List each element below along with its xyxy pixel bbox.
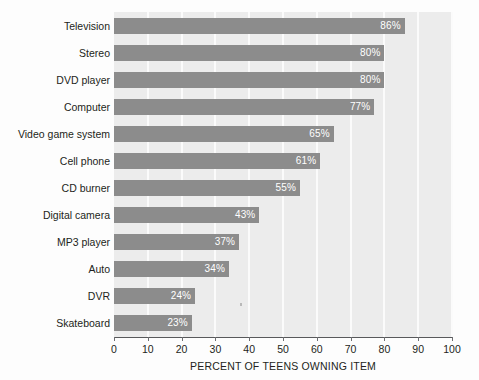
bar-value-label: 61% [114, 153, 320, 169]
bar-row: 43% [114, 207, 452, 223]
bar-row: 23% [114, 315, 452, 331]
category-label: Video game system [2, 126, 110, 142]
bar-value-label: 80% [114, 45, 384, 61]
bar-row: 86% [114, 18, 452, 34]
bar-value-label: 23% [114, 315, 192, 331]
bar-value-label: 77% [114, 99, 374, 115]
bar-row: 24% [114, 288, 452, 304]
scan-artifact-speck [240, 303, 242, 306]
category-label: Television [2, 18, 110, 34]
tick-mark-40 [249, 337, 250, 341]
bar-value-label: 37% [114, 234, 239, 250]
bar-row: 77% [114, 99, 452, 115]
bar-row: 80% [114, 72, 452, 88]
tick-mark-30 [215, 337, 216, 341]
bar-value-label: 55% [114, 180, 300, 196]
tick-mark-10 [148, 337, 149, 341]
category-label: DVR [2, 288, 110, 304]
category-label: CD burner [2, 180, 110, 196]
bar-row: 65% [114, 126, 452, 142]
bars-layer: 86%80%80%77%65%61%55%43%37%34%24%23% [114, 12, 452, 337]
x-tick-label: 0 [111, 343, 117, 355]
tick-mark-20 [182, 337, 183, 341]
category-label: Computer [2, 99, 110, 115]
bar-row: 61% [114, 153, 452, 169]
bar-row: 34% [114, 261, 452, 277]
bar-value-label: 86% [114, 18, 405, 34]
tick-mark-80 [384, 337, 385, 341]
category-label: Skateboard [2, 315, 110, 331]
bar-value-label: 43% [114, 207, 259, 223]
tick-mark-50 [283, 337, 284, 341]
x-tick-label: 100 [443, 343, 461, 355]
bar-value-label: 24% [114, 288, 195, 304]
bar-chart: 86%80%80%77%65%61%55%43%37%34%24%23% Tel… [0, 0, 479, 380]
x-tick-label: 90 [412, 343, 424, 355]
bar-row: 37% [114, 234, 452, 250]
tick-mark-90 [418, 337, 419, 341]
x-tick-label: 60 [311, 343, 323, 355]
x-tick-label: 50 [277, 343, 289, 355]
category-label: DVD player [2, 72, 110, 88]
x-tick-label: 10 [142, 343, 154, 355]
tick-mark-70 [351, 337, 352, 341]
bar-value-label: 65% [114, 126, 334, 142]
x-axis-title: PERCENT OF TEENS OWNING ITEM [114, 360, 452, 372]
tick-mark-60 [317, 337, 318, 341]
tick-mark-100 [452, 337, 453, 341]
bar-row: 55% [114, 180, 452, 196]
tick-mark-0 [114, 337, 115, 341]
bar-value-label: 34% [114, 261, 229, 277]
category-label: Digital camera [2, 207, 110, 223]
category-label: Auto [2, 261, 110, 277]
category-label: Cell phone [2, 153, 110, 169]
x-tick-label: 30 [210, 343, 222, 355]
x-tick-label: 80 [379, 343, 391, 355]
x-tick-label: 40 [243, 343, 255, 355]
category-label: Stereo [2, 45, 110, 61]
x-tick-label: 70 [345, 343, 357, 355]
category-label: MP3 player [2, 234, 110, 250]
x-tick-label: 20 [176, 343, 188, 355]
category-axis-labels: TelevisionStereoDVD playerComputerVideo … [0, 12, 110, 337]
bar-row: 80% [114, 45, 452, 61]
bar-value-label: 80% [114, 72, 384, 88]
